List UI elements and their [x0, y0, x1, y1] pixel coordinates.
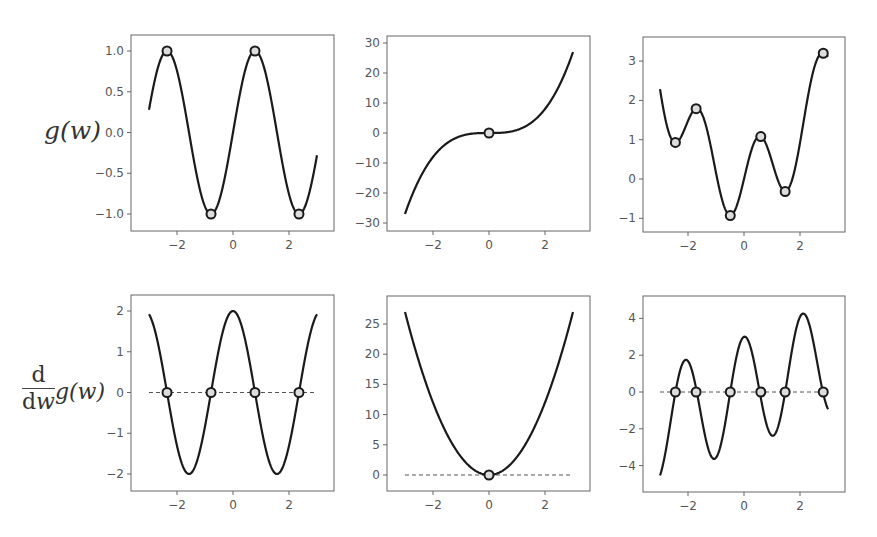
y-tick-label: 3 [628, 54, 636, 68]
stationary-point-marker [163, 47, 172, 56]
y-tick-label: 2 [628, 93, 636, 107]
stationary-point-marker [692, 104, 701, 113]
y-tick-label: 10 [365, 96, 380, 110]
x-tick-label: 0 [229, 498, 237, 512]
x-tick-label: −2 [679, 499, 697, 513]
x-tick-label: 2 [285, 498, 293, 512]
y-tick-label: 0.5 [105, 85, 124, 99]
x-tick-label: 2 [541, 238, 549, 252]
y-tick-label: −1 [106, 426, 124, 440]
den-w: w [36, 389, 55, 414]
y-tick-label: −30 [355, 216, 380, 230]
x-tick-label: 0 [740, 499, 748, 513]
x-tick-label: −2 [424, 498, 442, 512]
subplot-top-middle: −2023020100−10−20−30 [355, 36, 590, 252]
y-tick-label: 0 [372, 468, 380, 482]
y-tick-label: 1 [116, 345, 124, 359]
y-tick-label: 2 [116, 304, 124, 318]
subplot-bottom-right: −202420−2−4 [618, 296, 845, 513]
subplot-top-left: −2021.00.50.0−0.5−1.0 [95, 35, 334, 252]
stationary-point-marker [726, 388, 735, 397]
stationary-point-marker [756, 132, 765, 141]
figure-canvas: −2021.00.50.0−0.5−1.0 −2023020100−10−20−… [0, 0, 877, 537]
fraction-denominator: dw [22, 389, 55, 415]
y-tick-label: −10 [355, 156, 380, 170]
y-tick-label: −2 [106, 467, 124, 481]
y-tick-label: 20 [365, 347, 380, 361]
derivative-fraction: d dw [22, 362, 55, 415]
stationary-point-marker [819, 49, 828, 58]
y-tick-label: 0.0 [105, 126, 124, 140]
y-tick-label: 0 [116, 386, 124, 400]
x-tick-label: 0 [740, 239, 748, 253]
y-tick-label: 0 [628, 385, 636, 399]
stationary-point-marker [163, 388, 172, 397]
stationary-point-marker [485, 471, 494, 480]
y-tick-label: 30 [365, 36, 380, 50]
y-tick-label: 10 [365, 408, 380, 422]
stationary-point-marker [294, 388, 303, 397]
subplot-top-right: −2023210−1 [618, 37, 845, 253]
y-tick-label: 2 [628, 348, 636, 362]
y-tick-label: −0.5 [95, 166, 124, 180]
y-tick-label: −2 [618, 422, 636, 436]
subplot-bottom-middle: −2022520151050 [365, 296, 590, 512]
x-tick-label: 0 [485, 238, 493, 252]
x-tick-label: −2 [168, 498, 186, 512]
x-tick-label: 2 [796, 239, 804, 253]
ylabel-derivative: d dw g(w) [22, 362, 105, 415]
stationary-point-marker [726, 211, 735, 220]
y-tick-label: 15 [365, 377, 380, 391]
y-tick-label: 1 [628, 133, 636, 147]
fraction-numerator: d [22, 362, 55, 389]
y-tick-label: 5 [372, 438, 380, 452]
stationary-point-marker [250, 47, 259, 56]
stationary-point-marker [250, 388, 259, 397]
stationary-point-marker [692, 388, 701, 397]
stationary-point-marker [781, 187, 790, 196]
den-d: d [22, 389, 36, 414]
subplot-bottom-left: −202210−1−2 [106, 295, 334, 512]
y-tick-label: 20 [365, 66, 380, 80]
y-tick-label: −4 [618, 459, 636, 473]
y-tick-label: 4 [628, 311, 636, 325]
x-tick-label: 2 [285, 238, 293, 252]
y-tick-label: 0 [628, 172, 636, 186]
y-tick-label: 25 [365, 317, 380, 331]
x-tick-label: −2 [679, 239, 697, 253]
axes-frame [387, 296, 590, 491]
x-tick-label: 2 [796, 499, 804, 513]
x-tick-label: −2 [168, 238, 186, 252]
y-tick-label: 0 [372, 126, 380, 140]
x-tick-label: 0 [485, 498, 493, 512]
stationary-point-marker [207, 388, 216, 397]
stationary-point-marker [671, 138, 680, 147]
y-tick-label: −1 [618, 211, 636, 225]
y-tick-label: 1.0 [105, 44, 124, 58]
ylabel-g-of-w: g(w) [44, 116, 101, 145]
stationary-point-marker [756, 388, 765, 397]
stationary-point-marker [671, 388, 680, 397]
stationary-point-marker [781, 388, 790, 397]
derivative-gw: g(w) [55, 379, 105, 404]
x-tick-label: −2 [424, 238, 442, 252]
stationary-point-marker [294, 210, 303, 219]
x-tick-label: 0 [229, 238, 237, 252]
stationary-point-marker [207, 210, 216, 219]
stationary-point-marker [819, 388, 828, 397]
x-tick-label: 2 [541, 498, 549, 512]
stationary-point-marker [485, 129, 494, 138]
y-tick-label: −1.0 [95, 207, 124, 221]
y-tick-label: −20 [355, 186, 380, 200]
